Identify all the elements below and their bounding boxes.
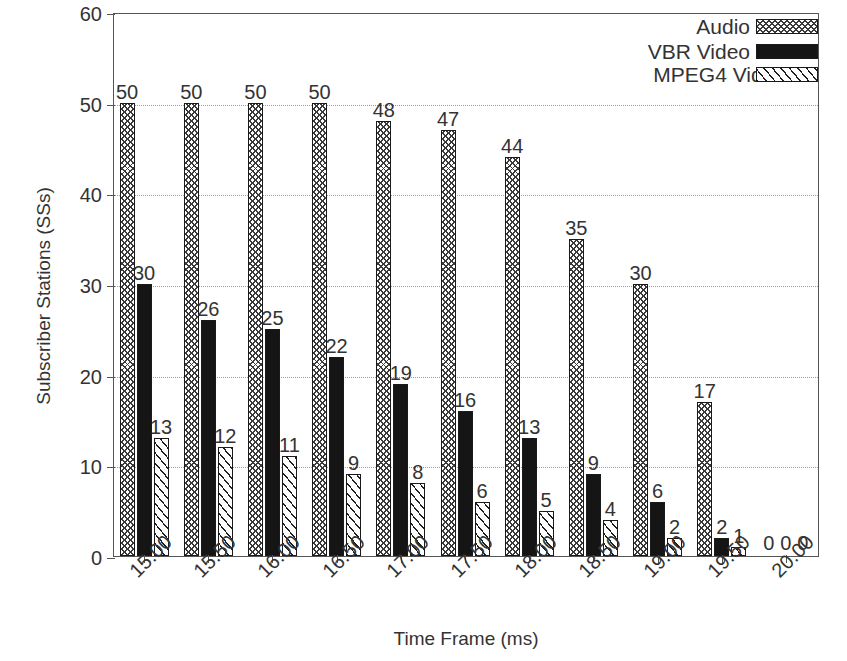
bar-audio: 44 <box>505 157 520 556</box>
bar-value-label: 50 <box>244 82 266 102</box>
x-axis-title: Time Frame (ms) <box>113 628 819 650</box>
bar-value-label: 2 <box>716 517 727 537</box>
bar-value-label: 48 <box>373 100 395 120</box>
bar-group: 1721 <box>697 14 746 556</box>
bar-group: 502511 <box>248 14 297 556</box>
y-tick-label: 10 <box>80 456 102 479</box>
bar-group: 3594 <box>569 14 618 556</box>
bar-value-label: 13 <box>150 417 172 437</box>
bar-value-label: 50 <box>116 82 138 102</box>
bar-value-label: 6 <box>652 481 663 501</box>
plot-area: 0102030405060 50301350261250251150229481… <box>113 13 819 557</box>
bar-value-label: 11 <box>279 435 300 455</box>
bar-value-label: 19 <box>390 363 412 383</box>
legend-swatch-vbr-video-icon <box>756 44 818 59</box>
bar-value-label: 50 <box>309 82 331 102</box>
bar-audio: 47 <box>441 130 456 556</box>
bar-audio: 50 <box>184 103 199 556</box>
y-tick-label: 20 <box>80 365 102 388</box>
bar-value-label: 9 <box>348 453 359 473</box>
y-tick-label: 0 <box>91 547 102 570</box>
bar-group: 502612 <box>184 14 233 556</box>
bar-audio: 48 <box>376 121 391 556</box>
bar-chart-figure: Subscriber Stations (SSs) Time Frame (ms… <box>0 0 847 661</box>
legend-item-vbr-video: VBR Video <box>560 39 818 64</box>
legend-label-vbr-video: VBR Video <box>648 40 750 64</box>
bar-value-label: 13 <box>518 417 540 437</box>
y-tick-label: 30 <box>80 275 102 298</box>
bar-group: 44135 <box>505 14 554 556</box>
bar-audio: 17 <box>697 402 712 556</box>
bar-audio: 50 <box>120 103 135 556</box>
bar-value-label: 6 <box>476 481 487 501</box>
bar-value-label: 44 <box>501 136 523 156</box>
bar-series-layer: 5030135026125025115022948198471664413535… <box>114 14 818 556</box>
bar-group: 3062 <box>633 14 682 556</box>
y-tick-mark <box>107 558 115 559</box>
bar-value-label: 9 <box>588 453 599 473</box>
bar-group: 48198 <box>376 14 425 556</box>
bar-value-label: 8 <box>412 462 423 482</box>
y-axis-title: Subscriber Stations (SSs) <box>33 146 55 446</box>
bar-value-label: 30 <box>133 263 155 283</box>
y-tick-label: 40 <box>80 184 102 207</box>
bar-value-label: 0 <box>763 533 774 553</box>
bar-value-label: 16 <box>454 390 476 410</box>
legend-item-mpeg4-video: MPEG4 Video <box>560 62 818 87</box>
bar-value-label: 4 <box>605 499 616 519</box>
bar-audio: 35 <box>569 239 584 556</box>
bar-vbr-video: 19 <box>393 384 408 556</box>
bar-group: 000 <box>761 14 810 556</box>
legend-swatch-mpeg4-video-icon <box>756 67 818 82</box>
bar-audio: 30 <box>633 284 648 556</box>
bar-group: 50229 <box>312 14 361 556</box>
legend-label-audio: Audio <box>696 15 750 39</box>
bar-value-label: 30 <box>629 263 651 283</box>
legend: Audio VBR Video MPEG4 Video <box>560 14 818 87</box>
legend-item-audio: Audio <box>560 14 818 39</box>
bar-vbr-video: 16 <box>458 411 473 556</box>
bar-value-label: 12 <box>214 426 236 446</box>
bar-value-label: 47 <box>437 109 459 129</box>
bar-audio: 50 <box>312 103 327 556</box>
y-tick-label: 50 <box>80 93 102 116</box>
bar-value-label: 25 <box>261 308 283 328</box>
legend-swatch-audio-icon <box>756 19 818 34</box>
bar-group: 47166 <box>441 14 490 556</box>
y-tick-label: 60 <box>80 3 102 26</box>
bar-value-label: 22 <box>326 336 348 356</box>
bar-vbr-video: 22 <box>329 357 344 556</box>
bar-value-label: 26 <box>197 299 219 319</box>
bar-value-label: 5 <box>541 490 552 510</box>
bar-vbr-video: 13 <box>522 438 537 556</box>
bar-vbr-video: 25 <box>265 329 280 556</box>
bar-value-label: 50 <box>180 82 202 102</box>
bar-value-label: 35 <box>565 218 587 238</box>
bar-group: 503013 <box>120 14 169 556</box>
bar-value-label: 17 <box>694 381 716 401</box>
